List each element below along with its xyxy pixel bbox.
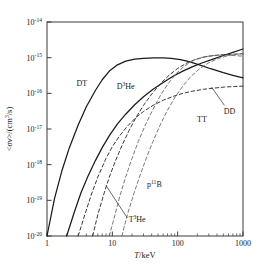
x-axis-title: T/keV	[134, 250, 156, 260]
curve-d3he	[93, 54, 243, 236]
curve-label-dt: DT	[76, 79, 87, 88]
y-tick-label: 10-14	[27, 17, 43, 27]
curve-dd	[67, 49, 243, 236]
y-tick-label: 10-19	[27, 195, 43, 205]
label-leader-lines	[106, 87, 224, 218]
curve-label-d3he: D3He	[117, 81, 135, 91]
axis-tick-labels: 110100100010-1410-1510-1610-1710-1810-19…	[27, 17, 251, 248]
y-axis-title: <σv>/(cm3/s)	[4, 107, 14, 152]
chart-figure: 110100100010-1410-1510-1610-1710-1810-19…	[0, 0, 253, 272]
fusion-reactivity-plot: 110100100010-1410-1510-1610-1710-1810-19…	[0, 0, 253, 272]
y-tick-label: 10-20	[27, 231, 43, 241]
curve-label-tt: TT	[197, 115, 207, 124]
curve-label-t3he: T3He	[129, 214, 146, 224]
y-tick-label: 10-15	[27, 52, 43, 62]
y-tick-label: 10-18	[27, 159, 43, 169]
y-tick-label: 10-17	[27, 124, 43, 134]
x-tick-label: 10	[108, 239, 116, 248]
curve-t3he	[122, 53, 243, 236]
x-tick-label: 100	[172, 239, 184, 248]
curve-tt	[78, 86, 243, 236]
x-tick-label: 1000	[235, 239, 251, 248]
x-tick-label: 1	[45, 239, 49, 248]
leader-line-dd	[212, 87, 225, 105]
data-curves	[47, 49, 243, 236]
curve-label-p11b: p11B	[147, 179, 162, 189]
curve-label-dd: DD	[224, 107, 236, 116]
leader-line-t3he	[106, 186, 127, 218]
y-tick-label: 10-16	[27, 88, 43, 98]
